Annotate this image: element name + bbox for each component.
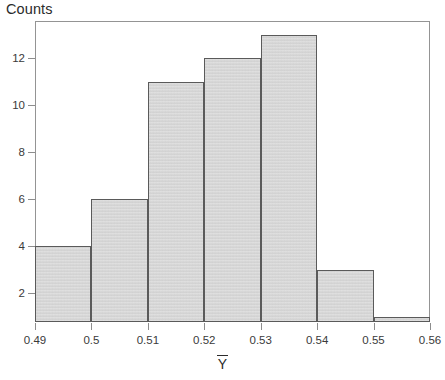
x-axis-tick [261, 323, 262, 330]
x-axis-tick [91, 323, 92, 330]
x-axis-tick-label: 0.54 [306, 334, 328, 346]
x-axis-tick [148, 323, 149, 330]
x-axis-tick-label: 0.56 [419, 334, 441, 346]
x-axis: 0.490.50.510.520.530.540.550.56 [0, 0, 445, 380]
x-axis-tick-label: 0.51 [137, 334, 159, 346]
y-bar-symbol: Y [218, 355, 227, 372]
x-axis-tick [317, 323, 318, 330]
x-axis-tick [430, 323, 431, 330]
x-axis-tick-label: 0.5 [83, 334, 99, 346]
x-axis-tick-label: 0.52 [193, 334, 215, 346]
x-axis-tick-label: 0.53 [250, 334, 272, 346]
x-axis-tick-label: 0.49 [24, 334, 46, 346]
histogram-figure: Counts 24681012 0.490.50.510.520.530.540… [0, 0, 445, 380]
x-axis-title: Y [0, 355, 445, 372]
x-axis-tick-label: 0.55 [362, 334, 384, 346]
x-axis-tick [35, 323, 36, 330]
x-axis-tick [374, 323, 375, 330]
x-axis-tick [204, 323, 205, 330]
